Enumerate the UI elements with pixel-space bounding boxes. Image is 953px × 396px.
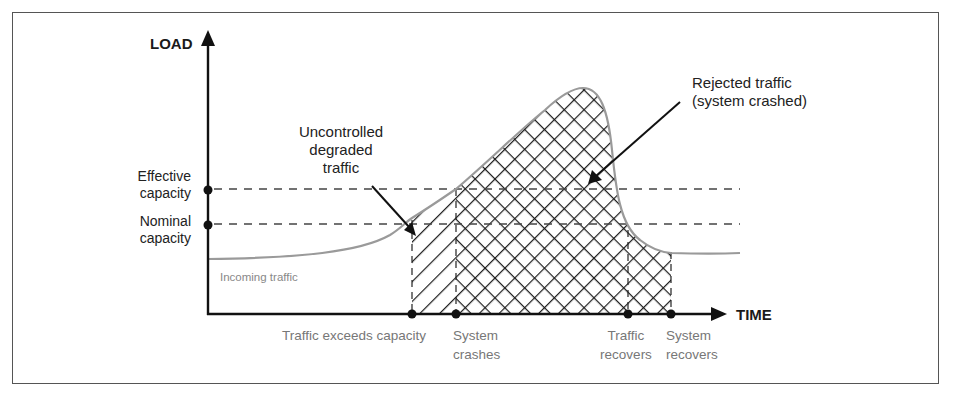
incoming-traffic-label: Incoming traffic [220,271,298,283]
y-axis-label: LOAD [150,35,193,52]
traffic-recovers-label-2: recovers [600,347,652,362]
nominal-capacity-label-2: capacity [140,230,191,246]
system-recovers-dot [667,310,676,319]
uncontrolled-label-2: degraded [309,141,372,158]
system-recovers-label-1: System [666,328,711,343]
rejected-label-1: Rejected traffic [692,74,792,91]
rejected-traffic-region [450,80,680,320]
uncontrolled-label-1: Uncontrolled [299,123,383,140]
nominal-capacity-label: Nominal [140,213,191,229]
exceeds-label: Traffic exceeds capacity [282,328,426,343]
crashes-dot [452,310,461,319]
load-time-diagram: LOAD TIME Effective capacity Nominal cap… [0,0,953,396]
crashes-label-1: System [453,328,498,343]
effective-capacity-label: Effective [138,168,192,184]
effective-capacity-dot [204,186,213,195]
crashes-label-2: crashes [453,347,501,362]
traffic-recovers-label-1: Traffic [608,328,645,343]
traffic-recovers-dot [624,310,633,319]
rejected-label-2: (system crashed) [692,92,807,109]
effective-capacity-label-2: capacity [140,185,191,201]
uncontrolled-arrow-line [372,186,410,228]
exceeds-dot [408,310,417,319]
y-axis-arrow-icon [201,30,215,46]
uncontrolled-label-3: traffic [323,159,360,176]
uncontrolled-degraded-region [400,150,460,320]
x-axis-arrow-icon [711,307,727,321]
x-axis-label: TIME [736,306,772,323]
system-recovers-label-2: recovers [666,347,718,362]
nominal-capacity-dot [204,221,213,230]
